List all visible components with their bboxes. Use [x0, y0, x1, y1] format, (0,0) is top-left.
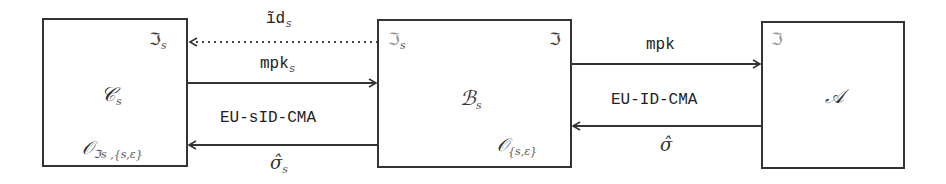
edge-label-sigma: σ̂ [660, 136, 672, 154]
edge-label-eu-id-cma: EU-ID-CMA [611, 92, 697, 108]
label-a: 𝒜 [825, 86, 844, 106]
edge-label-sigma-s: σ̂s [270, 154, 288, 175]
label-c-s-interface: ℑs [149, 31, 167, 51]
edge-label-id-s: ĩds [266, 11, 292, 30]
edge-label-mpk-s: mpks [260, 56, 295, 75]
label-c-s-oracle: 𝒪ℑs ,{s,ε} [82, 139, 143, 160]
label-b-s: ℬs [460, 88, 482, 111]
label-b-s-interface-left: ℑs [388, 31, 406, 51]
label-b-s-interface-right: ℑ [549, 31, 561, 48]
edge-label-eu-sid-cma: EU-sID-CMA [220, 110, 316, 126]
edge-label-mpk: mpk [646, 37, 675, 53]
label-c-s: 𝒞s [101, 84, 122, 107]
label-b-s-oracle: 𝒪{s,ε} [497, 136, 537, 157]
label-a-interface: ℑ [771, 31, 783, 48]
